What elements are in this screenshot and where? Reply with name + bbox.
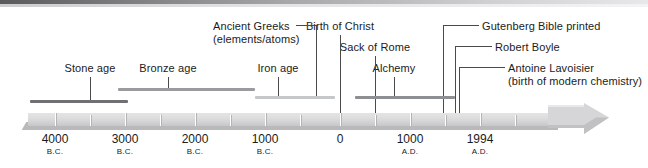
event-label-gutenberg: Gutenberg Bible printed: [482, 20, 601, 33]
leader-line-ancient-greeks-horizontal: [296, 25, 317, 26]
leader-line-lavoisier-horizontal: [459, 67, 505, 68]
timeline-figure: Stone age Bronze age Iron age Ancient Gr…: [0, 0, 648, 168]
era-bar-stone-age: [30, 100, 128, 103]
axis-tick-major-1-shade: [126, 113, 127, 126]
axis-tick-major-0-shade: [56, 113, 57, 126]
leader-line-sack-of-rome: [375, 56, 376, 114]
leader-line-robert-boyle-horizontal: [455, 46, 492, 47]
era-label-bronze-age: Bronze age: [139, 62, 196, 75]
axis-bar: [28, 113, 558, 126]
axis-label-5-era: A.D.: [397, 146, 424, 157]
axis-tick-minor-3-shade: [301, 115, 302, 126]
lavoisier-line1: Antoine Lavoisier: [508, 62, 594, 74]
axis-tick-major-5-shade: [411, 113, 412, 126]
leader-line-ancient-greeks-vertical: [316, 25, 317, 98]
lavoisier-line2: (birth of modern chemistry): [508, 75, 642, 88]
era-label-alchemy: Alchemy: [373, 62, 416, 75]
axis-label-4: 0: [337, 132, 344, 146]
axis-tick-minor-0-shade: [91, 115, 92, 126]
leader-line-robert-boyle-vertical: [455, 46, 456, 114]
event-label-antoine-lavoisier: Antoine Lavoisier (birth of modern chemi…: [508, 62, 642, 88]
leader-line-iron-age: [278, 77, 279, 97]
axis-tick-major-2-shade: [196, 113, 197, 126]
leader-line-gutenberg-horizontal: [443, 25, 479, 26]
axis-label-4-year: 0: [337, 132, 344, 146]
axis-label-3-year: 1000: [252, 132, 279, 146]
axis-label-0: 4000 B.C.: [42, 132, 69, 157]
axis-tick-minor-2-shade: [231, 115, 232, 126]
axis-label-5-year: 1000: [397, 132, 424, 146]
window-top-border-highlight: [0, 4, 648, 7]
axis-tick-minor-6-shade: [516, 115, 517, 126]
axis-tick-minor-4-shade: [376, 115, 377, 126]
axis-label-1-era: B.C.: [112, 146, 139, 157]
leader-line-birth-of-christ: [340, 35, 341, 114]
leader-line-alchemy: [394, 77, 395, 98]
axis-tick-minor-5-shade: [446, 115, 447, 126]
era-bar-bronze-age: [118, 88, 255, 91]
axis-label-2-year: 2000: [182, 132, 209, 146]
axis-label-1-year: 3000: [112, 132, 139, 146]
era-label-iron-age: Iron age: [257, 62, 298, 75]
leader-line-gutenberg-vertical: [443, 25, 444, 114]
leader-line-stone-age: [90, 77, 91, 102]
axis-label-3-era: B.C.: [252, 146, 279, 157]
axis-label-0-era: B.C.: [42, 146, 69, 157]
event-label-ancient-greeks: Ancient Greeks (elements/atoms): [213, 20, 300, 46]
era-label-stone-age: Stone age: [64, 62, 115, 75]
axis-label-2: 2000 B.C.: [182, 132, 209, 157]
event-label-sack-of-rome: Sack of Rome: [340, 41, 410, 54]
axis-label-6-era: A.D.: [467, 146, 494, 157]
axis-label-5: 1000 A.D.: [397, 132, 424, 157]
era-bar-iron-age: [255, 96, 335, 99]
ancient-greeks-line2: (elements/atoms): [213, 33, 300, 46]
axis-tick-major-3-shade: [266, 113, 267, 126]
axis-label-2-era: B.C.: [182, 146, 209, 157]
axis-tick-major-4-shade: [341, 113, 342, 126]
ancient-greeks-line1: Ancient Greeks: [213, 20, 290, 32]
axis-label-6-year: 1994: [467, 132, 494, 146]
axis-label-0-year: 4000: [42, 132, 69, 146]
axis-label-3: 1000 B.C.: [252, 132, 279, 157]
era-bar-alchemy: [355, 96, 455, 99]
axis-label-1: 3000 B.C.: [112, 132, 139, 157]
event-label-robert-boyle: Robert Boyle: [495, 41, 560, 54]
axis-tick-minor-1-shade: [161, 115, 162, 126]
axis-tick-major-6-shade: [481, 113, 482, 126]
axis-label-6: 1994 A.D.: [467, 132, 494, 157]
leader-line-lavoisier-vertical: [459, 67, 460, 114]
axis-arrowhead-icon: [548, 103, 610, 137]
